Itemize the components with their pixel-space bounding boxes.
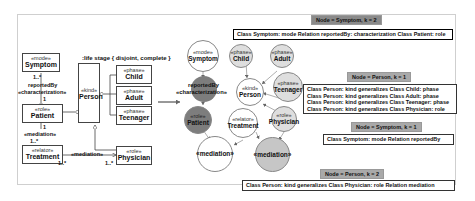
- stereotype: «mode»: [23, 54, 59, 61]
- node-name: Treatment: [227, 122, 258, 129]
- node-name: Adult: [274, 55, 291, 62]
- association-stereotype: «mediation»: [71, 151, 103, 157]
- multiplicity: 1..*: [58, 160, 66, 166]
- class-name: Patient: [23, 112, 62, 120]
- panel-line: Class Person: kind generalizes Class Tee…: [307, 99, 453, 106]
- graph-node-child[interactable]: «phase» Child: [229, 44, 253, 68]
- association-stereotype: «mediation»: [24, 131, 56, 137]
- node-name: Person: [239, 91, 261, 98]
- stereotype: «phase»: [117, 87, 151, 94]
- class-name: Adult: [117, 94, 151, 102]
- panel-header-person-k2: Node = Person, k = 2: [320, 169, 384, 179]
- uml-class-adult[interactable]: «phase» Adult: [116, 86, 152, 105]
- uml-class-person[interactable]: «kind» Person: [78, 63, 100, 123]
- panel-body-person-k2: Class Person: kind generalizes Class Phy…: [242, 180, 455, 191]
- panel-header-symptom-k2: Node = Symptom, k = 2: [311, 15, 382, 25]
- class-name: Person: [79, 93, 99, 101]
- graph-node-physician[interactable]: «role» Physician: [271, 106, 297, 132]
- node-name: Symptom: [188, 55, 218, 62]
- uml-class-child[interactable]: «phase» Child: [116, 65, 152, 84]
- association-stereotype: «characterization»: [18, 89, 66, 95]
- panel-line: Class Symptom: mode Relation reportedBy: [327, 136, 450, 143]
- graph-node-patient[interactable]: «role» Patient: [184, 106, 212, 134]
- graph-node-mediation-1[interactable]: «mediation»: [197, 136, 233, 172]
- uml-class-symptom[interactable]: «mode» Symptom: [22, 53, 60, 72]
- panel-line: Class Person: kind generalizes Class Adu…: [307, 93, 453, 100]
- panel-body-symptom-k2: Class Symptom: mode Relation reportedBy:…: [233, 29, 453, 40]
- panel-line: Class Person: kind generalizes Class Phy…: [246, 182, 451, 189]
- graph-node-person[interactable]: «kind» Person: [236, 78, 264, 106]
- graph-node-treatment[interactable]: «relator» Treatment: [228, 108, 258, 138]
- panel-line: Class Person: kind generalizes Class Chi…: [307, 86, 453, 93]
- uml-class-teenager[interactable]: «phase» Teenager: [116, 106, 152, 125]
- node-label-characterization: «characterization»: [176, 89, 227, 95]
- class-name: Symptom: [23, 61, 59, 69]
- graph-node-teenager[interactable]: «phase» Teenager: [273, 72, 303, 102]
- multiplicity: 1..*: [33, 74, 41, 80]
- stereotype: «kind»: [79, 86, 99, 93]
- uml-class-patient[interactable]: «role» Patient: [22, 104, 63, 123]
- stereotype: «relator»: [23, 146, 62, 153]
- panel-body-person-k1: Class Person: kind generalizes Class Chi…: [303, 84, 457, 114]
- stereotype: «phase»: [117, 66, 151, 73]
- multiplicity: 1..*: [105, 160, 113, 166]
- multiplicity: 1: [43, 124, 46, 130]
- stereotype: «role»: [23, 105, 62, 112]
- generalization-set-label: :life stage { disjoint, complete }: [82, 55, 171, 61]
- node-name: Child: [233, 55, 249, 62]
- class-name: Child: [117, 73, 151, 81]
- panel-body-symptom-k1: Class Symptom: mode Relation reportedBy: [323, 134, 454, 145]
- stereotype: «role»: [117, 147, 151, 154]
- multiplicity: 1..*: [30, 138, 38, 144]
- graph-node-mediation-2[interactable]: «mediation»: [255, 137, 290, 172]
- node-name: Physician: [269, 118, 299, 125]
- class-name: Physician: [117, 154, 151, 162]
- graph-node-symptom[interactable]: «mode» Symptom: [187, 40, 219, 72]
- class-name: Treatment: [23, 153, 62, 161]
- panel-line: Class Symptom: mode Relation reportedBy:…: [237, 31, 449, 38]
- panel-header-symptom-k1: Node = Symptom, k = 1: [351, 122, 422, 132]
- node-name: «mediation»: [254, 151, 292, 158]
- multiplicity: 1: [43, 96, 46, 102]
- class-name: Teenager: [117, 114, 151, 122]
- uml-class-physician[interactable]: «role» Physician: [116, 146, 152, 165]
- graph-node-adult[interactable]: «phase» Adult: [270, 44, 294, 68]
- node-label-reportedby: reportedBy: [188, 82, 219, 88]
- uml-class-treatment[interactable]: «relator» Treatment: [22, 145, 63, 164]
- node-name: Patient: [187, 119, 209, 126]
- panel-header-person-k1: Node = Person, k = 1: [347, 72, 411, 82]
- node-name: «mediation»: [196, 150, 234, 157]
- panel-line: Class Person: kind generalizes Class Phy…: [307, 106, 453, 113]
- node-name: Teenager: [274, 86, 302, 93]
- stereotype: «phase»: [117, 107, 151, 114]
- association-name: reportedBy: [28, 82, 57, 88]
